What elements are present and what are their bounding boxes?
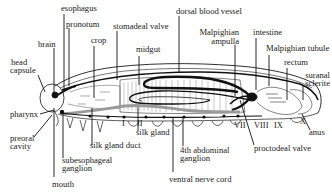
label-esophagus: esophagus [61,4,97,12]
malpighian-ampulla-shape [247,93,257,101]
proleg [152,121,163,126]
segment-label-VII: VII [234,121,246,130]
label-pronotum: pronotum [66,20,99,28]
label-malpighian-tubule: Malpighian tubule [266,44,329,52]
label-rectum: rectum [284,58,308,66]
label-brain: brain [38,40,56,48]
ganglion [60,110,64,114]
midgut-striations [124,80,232,112]
proleg [192,121,203,126]
rectum-shape [290,90,312,114]
ganglion [202,115,205,118]
segment-label-II: II [137,119,143,128]
segment-label-VIII: VIII [254,121,268,130]
label-silk-gland: silk gland [136,128,170,136]
leader-head-capsule [38,75,45,92]
label-4th-abdominal-line2: ganglion [180,154,210,162]
ganglion [162,115,165,118]
label-proctodeal-valve: proctodeal valve [254,144,311,152]
label-malpighian-ampulla-line2: ampulla [197,37,239,45]
head-lobe [55,112,58,126]
label-preoral-cavity-line2: cavity [10,142,31,150]
head [40,84,76,126]
label-stomadeal-valve: stomadeal valve [113,22,169,30]
label-subesophageal-line2: ganglion [62,164,92,172]
malpighian-lower-loop-inner [139,97,210,101]
label-silk-gland-duct: silk gland duct [90,141,141,149]
proleg [212,121,223,126]
ganglion [144,115,147,118]
label-midgut: midgut [136,45,160,53]
ganglion [88,114,91,117]
label-ventral-nerve-cord: ventral nerve cord [169,175,232,183]
label-anus: anus [309,128,325,136]
intestine-shape [257,87,302,114]
label-suranal-sclerite-line2: sclerite [290,79,330,87]
label-dorsal-blood-vessel: dorsal blood vessel [176,7,242,15]
label-pharynx: pharynx [10,110,38,118]
silk-gland-shape [60,105,240,114]
ganglion [236,114,239,117]
ganglion [222,114,225,117]
label-head-capsule-line2: capsule [10,66,36,74]
thoracic-leg [80,120,86,131]
label-intestine: intestine [253,28,282,36]
thoracic-leg [97,121,103,132]
segment-label-IX: IX [274,121,283,130]
hindgut [257,87,312,114]
ganglion [106,115,109,118]
label-crop: crop [91,36,106,44]
proleg [172,121,183,126]
label-mouth: mouth [52,180,74,188]
thoracic-leg [67,118,73,128]
segment-label-X: X [300,117,306,126]
segment-label-I: I [122,119,125,128]
